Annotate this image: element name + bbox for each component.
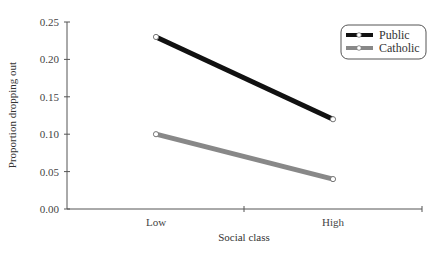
y-axis-title: Proportion dropping out: [6, 62, 18, 168]
x-tick-label: High: [322, 216, 345, 228]
y-tick-label: 0.00: [40, 203, 60, 215]
data-point: [330, 176, 335, 181]
legend-marker: [357, 33, 362, 38]
chart-canvas: 0.000.050.100.150.200.25 LowHigh Social …: [0, 0, 441, 259]
y-tick-label: 0.25: [40, 16, 60, 28]
y-tick-label: 0.10: [40, 128, 60, 140]
x-tick-label: Low: [146, 216, 166, 228]
y-tick-label: 0.15: [40, 91, 60, 103]
data-point: [153, 132, 158, 137]
legend-marker: [357, 46, 362, 51]
series-line-public: [156, 37, 333, 119]
series-lines: [153, 34, 335, 181]
y-tick-label: 0.20: [40, 53, 60, 65]
legend-label-public: Public: [379, 28, 410, 42]
x-axis-title: Social class: [218, 231, 270, 243]
line-chart: 0.000.050.100.150.200.25 LowHigh Social …: [0, 0, 441, 259]
y-tick-label: 0.05: [40, 166, 60, 178]
series-line-catholic: [156, 134, 333, 179]
y-ticks: 0.000.050.100.150.200.25: [40, 16, 70, 215]
data-point: [153, 34, 158, 39]
data-point: [330, 117, 335, 122]
legend-label-catholic: Catholic: [379, 41, 420, 55]
legend: PublicCatholic: [341, 25, 426, 59]
